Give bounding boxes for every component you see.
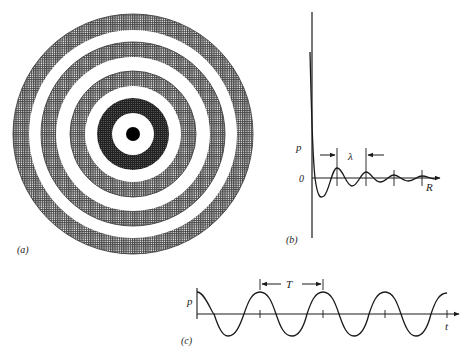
- panel-b-zero-label: 0: [299, 173, 304, 184]
- panel-c-label: (c): [181, 335, 193, 347]
- concentric-rings-panel-a: [13, 14, 253, 254]
- time-wave-panel-c: [197, 279, 459, 336]
- panel-b-p-label: p: [295, 141, 302, 153]
- panel-c-p-label: p: [186, 295, 193, 307]
- damped-wave-curve: [310, 52, 436, 197]
- wave-figure: (a) p 0 λ R (b) T p t (c): [0, 0, 472, 361]
- panel-a-label: (a): [17, 244, 29, 256]
- lambda-label: λ: [347, 150, 353, 162]
- panel-c-t-label: t: [445, 320, 449, 332]
- radial-wave-panel-b: [310, 12, 440, 238]
- panel-b-r-label: R: [425, 181, 433, 193]
- panel-b-label: (b): [286, 234, 298, 246]
- period-label: T: [286, 278, 293, 290]
